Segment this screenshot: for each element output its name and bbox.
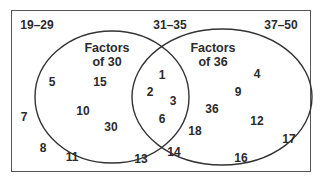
set-b-title-line1: Factors xyxy=(190,41,235,55)
number-16: 16 xyxy=(234,152,247,165)
number-17: 17 xyxy=(282,133,295,146)
set-b-title-line2: of 36 xyxy=(190,55,235,69)
number-3: 3 xyxy=(170,95,177,108)
number-15: 15 xyxy=(93,76,106,89)
number-5: 5 xyxy=(49,76,56,89)
range-label-right: 37–50 xyxy=(264,19,297,32)
number-1: 1 xyxy=(159,69,166,82)
set-a-title-line1: Factors xyxy=(84,41,129,55)
number-8: 8 xyxy=(40,142,47,155)
set-a-title-line2: of 30 xyxy=(84,55,129,69)
number-30: 30 xyxy=(104,121,117,134)
set-a-title: Factors of 30 xyxy=(84,41,129,69)
number-7: 7 xyxy=(21,111,28,124)
number-4: 4 xyxy=(254,68,261,81)
number-6: 6 xyxy=(159,113,166,126)
number-9: 9 xyxy=(235,86,242,99)
number-36: 36 xyxy=(205,103,218,116)
range-label-left: 19–29 xyxy=(20,19,53,32)
range-label-middle: 31–35 xyxy=(153,19,186,32)
set-b-title: Factors of 36 xyxy=(190,41,235,69)
number-12: 12 xyxy=(250,115,263,128)
number-11: 11 xyxy=(66,151,79,164)
number-2: 2 xyxy=(147,86,154,99)
number-14: 14 xyxy=(167,146,180,159)
number-18: 18 xyxy=(188,125,201,138)
number-10: 10 xyxy=(76,105,89,118)
number-13: 13 xyxy=(134,153,147,166)
